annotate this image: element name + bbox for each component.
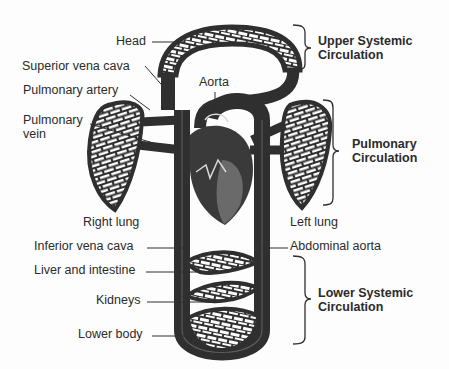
heart	[190, 114, 253, 225]
group-pulmonary-circulation: Pulmonary Circulation	[352, 137, 417, 165]
group-upper-systemic-line2: Circulation	[318, 48, 412, 62]
head-capillary-bed	[160, 27, 300, 75]
label-inferior-vena-cava: Inferior vena cava	[34, 240, 133, 253]
liver-intestine-capillary-bed	[186, 252, 258, 273]
circulation-diagram: Head Superior vena cava Pulmonary artery…	[0, 0, 449, 369]
group-lower-systemic-line2: Circulation	[318, 300, 413, 314]
label-pulmonary-vein-line2: vein	[23, 128, 46, 141]
group-pulmonary-line2: Circulation	[352, 151, 417, 165]
label-right-lung: Right lung	[83, 216, 139, 229]
label-left-lung: Left lung	[290, 216, 338, 229]
label-kidneys: Kidneys	[96, 294, 140, 307]
label-lower-body: Lower body	[78, 328, 143, 341]
kidneys-capillary-bed	[186, 283, 258, 301]
group-pulmonary-line1: Pulmonary	[352, 137, 417, 151]
label-pulmonary-vein-line1: Pulmonary	[23, 114, 83, 127]
left-lung-capillary-bed	[282, 102, 330, 208]
right-lung-capillary-bed	[89, 102, 142, 210]
label-superior-vena-cava: Superior vena cava	[22, 60, 130, 73]
group-lower-systemic-line1: Lower Systemic	[318, 286, 413, 300]
label-head: Head	[116, 35, 146, 48]
group-upper-systemic-line1: Upper Systemic	[318, 34, 412, 48]
label-aorta: Aorta	[199, 76, 229, 89]
label-abdominal-aorta: Abdominal aorta	[290, 240, 381, 253]
group-upper-systemic-circulation: Upper Systemic Circulation	[318, 34, 412, 62]
label-liver-and-intestine: Liver and intestine	[34, 264, 135, 277]
group-lower-systemic-circulation: Lower Systemic Circulation	[318, 286, 413, 314]
label-pulmonary-artery: Pulmonary artery	[23, 84, 118, 97]
